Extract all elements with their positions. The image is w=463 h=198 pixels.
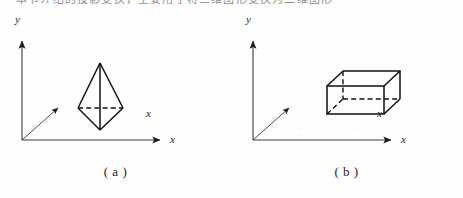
z-axis-label: x <box>146 107 151 119</box>
z-axis-line <box>253 108 289 140</box>
figure-a-caption: ( a ) <box>0 164 231 180</box>
figure-b-caption: ( b ) <box>231 164 462 180</box>
z-axis-label: x <box>377 107 382 119</box>
tetrahedron-solid-edges <box>78 63 123 130</box>
x-axis-label: x <box>401 133 406 145</box>
cuboid-solid-edges <box>327 71 400 114</box>
z-axis-line <box>22 108 58 140</box>
figure-a: y x x ( a ) <box>0 9 231 198</box>
figure-b: y x x ( b ) <box>231 9 462 198</box>
cut-off-header-text-label: 本节介绍的投影变换，主要用于将三维图形变换为二维图形 <box>16 0 333 6</box>
x-axis-label: x <box>170 133 175 145</box>
y-axis-label: y <box>15 13 20 25</box>
y-axis-label: y <box>246 13 251 25</box>
cuboid-hidden-edges <box>327 71 400 114</box>
figure-page: 本节介绍的投影变换，主要用于将三维图形变换为二维图形 <box>0 0 463 198</box>
cut-off-header-text: 本节介绍的投影变换，主要用于将三维图形变换为二维图形 <box>0 0 463 9</box>
